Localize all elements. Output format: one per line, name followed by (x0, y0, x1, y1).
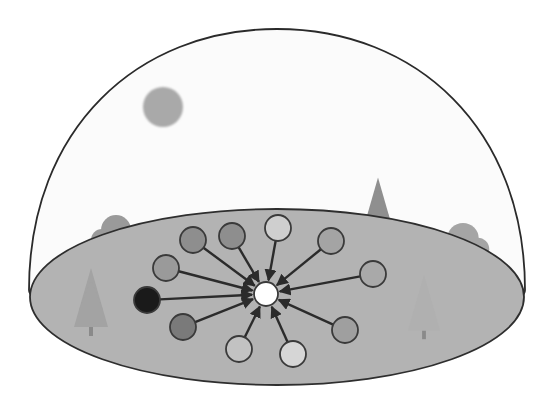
network-node-n7 (134, 287, 160, 313)
network-node-n1 (180, 227, 206, 253)
hub-node (254, 282, 278, 306)
network-node-n3 (265, 215, 291, 241)
network-node-n11 (280, 341, 306, 367)
network-node-n9 (332, 317, 358, 343)
network-node-n2 (219, 223, 245, 249)
network-node-n10 (226, 336, 252, 362)
network-node-n6 (153, 255, 179, 281)
network-node-n5 (360, 261, 386, 287)
network-node-n8 (170, 314, 196, 340)
dome-network-scene (0, 0, 554, 407)
network-node-n4 (318, 228, 344, 254)
diagram-canvas: Hub-and-spoke network under a dome (0, 0, 554, 407)
sun-icon (143, 87, 183, 127)
